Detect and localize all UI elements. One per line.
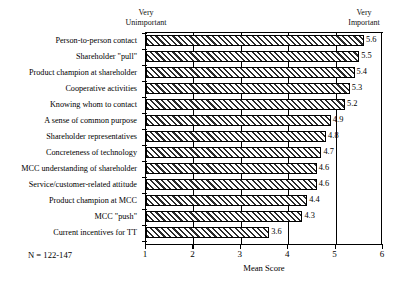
x-axis-title: Mean Score	[145, 263, 383, 273]
bar-row: 4.8	[146, 129, 383, 145]
value-axis-tick-label: 4	[276, 249, 298, 259]
bar	[146, 163, 317, 174]
bar	[146, 99, 345, 110]
bar-row: 4.9	[146, 113, 383, 129]
bar-value-label: 4.4	[309, 194, 319, 206]
bar-value-label: 5.5	[361, 50, 371, 62]
value-axis-tick	[192, 245, 193, 249]
bar-row: 5.6	[146, 33, 383, 49]
category-label: Shareholder "pull"	[0, 49, 141, 65]
value-axis-tick	[145, 245, 146, 249]
category-tick	[142, 241, 147, 242]
bar	[146, 35, 364, 46]
bar-value-label: 4.7	[323, 146, 333, 158]
category-label: Knowing whom to contact	[0, 97, 141, 113]
value-axis-tick	[287, 245, 288, 249]
bar	[146, 131, 326, 142]
bar-row: 4.6	[146, 161, 383, 177]
bar-chart: Very Unimportant Very Important Person-t…	[0, 0, 401, 287]
bar-value-label: 5.2	[347, 98, 357, 110]
bar	[146, 179, 317, 190]
bar-value-label: 4.3	[304, 210, 314, 222]
bar-value-label: 3.6	[271, 226, 281, 238]
bar-row: 4.6	[146, 177, 383, 193]
category-label: Person-to-person contact	[0, 33, 141, 49]
bar-value-label: 4.6	[319, 162, 329, 174]
value-axis-tick	[240, 245, 241, 249]
bar	[146, 195, 307, 206]
category-label: Product champion at shareholder	[0, 65, 141, 81]
value-axis-line	[145, 244, 383, 246]
bar-row: 4.7	[146, 145, 383, 161]
category-label: MCC "push"	[0, 209, 141, 225]
value-axis-tick-label: 3	[229, 249, 251, 259]
category-axis-labels: Person-to-person contactShareholder "pul…	[0, 33, 141, 241]
category-label: Service/customer-related attitude	[0, 177, 141, 193]
value-axis-tick-label: 1	[134, 249, 156, 259]
bar-row: 5.3	[146, 81, 383, 97]
axis-high-caption: Very Important	[330, 8, 398, 27]
sample-size-note: N = 122-147	[28, 250, 72, 260]
category-label: Cooperative activities	[0, 81, 141, 97]
bar	[146, 67, 355, 78]
axis-low-caption: Very Unimportant	[96, 8, 196, 27]
bar	[146, 115, 331, 126]
bar	[146, 211, 302, 222]
category-label: A sense of common purpose	[0, 113, 141, 129]
value-axis-tick-label: 5	[324, 249, 346, 259]
bar-value-label: 5.3	[352, 82, 362, 94]
category-label: Product champion at MCC	[0, 193, 141, 209]
bar	[146, 83, 350, 94]
category-label: MCC understanding of shareholder	[0, 161, 141, 177]
bar-value-label: 5.4	[357, 66, 367, 78]
bar-row: 3.6	[146, 225, 383, 241]
bar-value-label: 5.6	[366, 34, 376, 46]
value-axis-tick-label: 6	[371, 249, 393, 259]
value-axis-tick	[335, 245, 336, 249]
bar-row: 4.4	[146, 193, 383, 209]
bar-row: 5.4	[146, 65, 383, 81]
bar-row: 5.5	[146, 49, 383, 65]
bar	[146, 227, 269, 238]
bar-row: 4.3	[146, 209, 383, 225]
bar-value-label: 4.8	[328, 130, 338, 142]
category-label: Current incentives for TT	[0, 225, 141, 241]
category-label: Concreteness of technology	[0, 145, 141, 161]
plot-area: 5.65.55.45.35.24.94.84.74.64.64.44.33.6	[145, 33, 382, 244]
bar-value-label: 4.9	[333, 114, 343, 126]
bar-value-label: 4.6	[319, 178, 329, 190]
bar	[146, 147, 321, 158]
bar	[146, 51, 359, 62]
bar-row: 5.2	[146, 97, 383, 113]
category-label: Shareholder representatives	[0, 129, 141, 145]
value-axis-tick-label: 2	[181, 249, 203, 259]
value-axis-tick	[382, 245, 383, 249]
